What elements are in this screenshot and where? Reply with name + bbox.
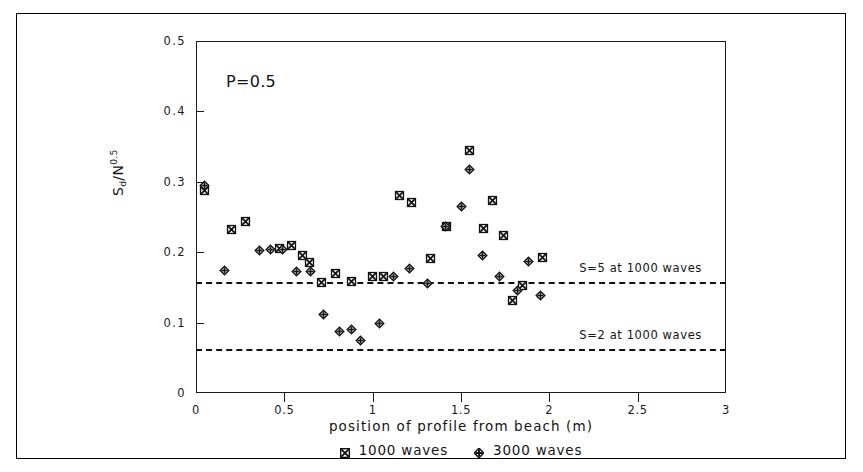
data-point <box>499 231 508 240</box>
data-point <box>389 272 398 281</box>
data-point <box>220 266 229 275</box>
data-point <box>495 272 504 281</box>
chart-legend: 1000 waves3000 waves <box>196 442 726 458</box>
x-tick-label: 1.5 <box>431 403 491 417</box>
reference-line-label: S=2 at 1000 waves <box>579 328 702 342</box>
data-point <box>405 264 414 273</box>
legend-entry: 1000 waves <box>340 442 448 458</box>
legend-marker-icon <box>340 445 350 455</box>
data-point <box>347 325 356 334</box>
figure-canvas: Sd/N0.5 position of profile from beach (… <box>0 0 863 472</box>
data-point <box>538 253 547 262</box>
data-point <box>457 202 466 211</box>
data-point <box>465 165 474 174</box>
x-tick-mark <box>549 393 550 402</box>
data-point <box>379 272 388 281</box>
reference-line <box>196 349 726 351</box>
y-tick-label: 0.1 <box>130 316 186 330</box>
data-point <box>227 225 236 234</box>
data-point <box>266 245 275 254</box>
x-tick-label: 2.5 <box>608 403 668 417</box>
data-point <box>347 277 356 286</box>
x-tick-label: 2 <box>519 403 579 417</box>
legend-label: 3000 waves <box>493 442 582 458</box>
data-point <box>255 246 264 255</box>
data-point <box>465 146 474 155</box>
x-tick-label: 0 <box>166 403 226 417</box>
data-point <box>536 291 545 300</box>
plot-data-area: S=5 at 1000 wavesS=2 at 1000 waves <box>196 41 726 393</box>
data-point <box>441 222 450 231</box>
data-point <box>368 272 377 281</box>
data-point <box>423 279 432 288</box>
data-point <box>407 198 416 207</box>
data-point <box>241 217 250 226</box>
legend-entry: 3000 waves <box>474 442 582 458</box>
data-point <box>319 310 328 319</box>
data-point <box>478 251 487 260</box>
x-tick-mark <box>373 393 374 402</box>
data-point <box>305 258 314 267</box>
data-point <box>335 327 344 336</box>
data-point <box>356 336 365 345</box>
data-point <box>200 181 209 190</box>
data-point <box>278 245 287 254</box>
y-tick-label: 0.4 <box>130 104 186 118</box>
reference-line <box>196 282 726 284</box>
data-point <box>513 286 522 295</box>
y-tick-mark <box>196 111 204 112</box>
x-tick-mark <box>461 393 462 402</box>
x-axis-title: position of profile from beach (m) <box>196 418 726 434</box>
x-tick-mark <box>284 393 285 402</box>
data-point <box>375 319 384 328</box>
reference-line-label: S=5 at 1000 waves <box>579 261 702 275</box>
data-point <box>488 196 497 205</box>
x-tick-label: 1 <box>343 403 403 417</box>
y-axis-title: Sd/N0.5 <box>108 149 128 196</box>
data-point <box>287 241 296 250</box>
y-tick-mark <box>196 323 204 324</box>
legend-marker-icon <box>474 445 484 455</box>
y-tick-mark <box>196 252 204 253</box>
data-point <box>331 269 340 278</box>
x-tick-label: 3 <box>696 403 756 417</box>
data-point <box>508 296 517 305</box>
data-point <box>306 267 315 276</box>
y-tick-label: 0 <box>130 386 186 400</box>
legend-label: 1000 waves <box>359 442 448 458</box>
x-tick-label: 0.5 <box>254 403 314 417</box>
x-tick-mark <box>638 393 639 402</box>
y-tick-label: 0.2 <box>130 245 186 259</box>
data-point <box>426 254 435 263</box>
data-point <box>395 191 404 200</box>
y-tick-label: 0.3 <box>130 175 186 189</box>
data-point <box>524 257 533 266</box>
data-point <box>292 267 301 276</box>
y-tick-label: 0.5 <box>130 34 186 48</box>
data-point <box>317 278 326 287</box>
data-point <box>479 224 488 233</box>
